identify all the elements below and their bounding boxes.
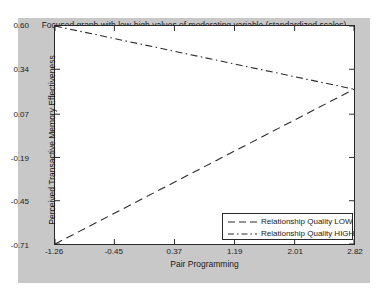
y-tick-label: 0.60 — [13, 21, 29, 30]
y-tick-label: 0.07 — [13, 110, 29, 119]
x-tick-label: 1.19 — [227, 247, 243, 256]
x-tick-label: 2.82 — [347, 247, 363, 256]
y-axis-label: Perceived Transactive Memory Effectivene… — [47, 50, 57, 230]
data-series-group — [55, 26, 354, 244]
x-tick-label: -1.26 — [45, 247, 63, 256]
x-tick-label: -0.45 — [105, 247, 123, 256]
legend-label-high: Relationship Quality HIGH — [261, 229, 354, 238]
x-axis-label: Pair Programming — [54, 259, 355, 269]
legend-line-sample-dashdot — [227, 229, 258, 239]
y-tick-label: 0.34 — [13, 64, 29, 73]
chart-legend: Relationship Quality LOW Relationship Qu… — [222, 213, 353, 240]
figure-panel: Focused graph with low-high values of mo… — [18, 18, 370, 283]
x-tick-label: 2.01 — [287, 247, 303, 256]
y-tick-label: -0.71 — [11, 241, 29, 250]
legend-label-low: Relationship Quality LOW — [261, 217, 353, 226]
y-tick-label: -0.45 — [11, 197, 29, 206]
y-tick-label: -0.19 — [11, 153, 29, 162]
axis-tick-marks — [55, 26, 354, 244]
plot-canvas — [55, 26, 354, 244]
series-line-high — [55, 26, 354, 89]
x-tick-label: 0.37 — [166, 247, 182, 256]
legend-item-high: Relationship Quality HIGH — [223, 227, 354, 240]
legend-line-sample-dashed — [227, 217, 258, 227]
plot-axes-area — [54, 25, 355, 245]
